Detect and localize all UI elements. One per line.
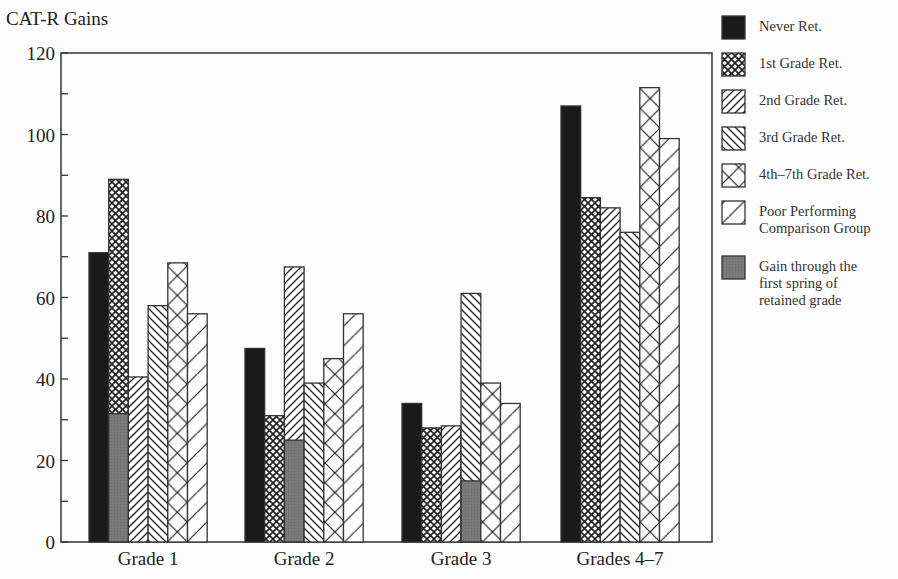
y-tick-label: 100 [27,125,56,146]
bar [265,416,285,542]
y-tick-label: 80 [36,206,55,227]
bar [188,314,208,542]
legend-swatch-spacer [722,55,745,78]
legend-label: 4th–7th Grade Ret. [759,166,870,183]
bar [344,314,364,542]
y-tick-label: 0 [46,532,56,553]
bar [89,253,109,542]
bar [324,359,344,542]
legend-label: Never Ret. [759,18,822,35]
bar [441,426,461,542]
legend-label: 2nd Grade Ret. [759,92,847,109]
legend-label: Gain through the first spring of retaine… [759,258,857,309]
bar [128,377,148,542]
x-tick-label: Grades 4–7 [577,548,664,569]
legend-label: 1st Grade Ret. [759,55,842,72]
legend-swatch-spacer [722,203,745,226]
legend-swatch-spacer [722,92,745,115]
y-tick-label: 20 [36,451,55,472]
y-tick-label: 60 [36,288,55,309]
plot-area: 020406080100120Grade 1Grade 2Grade 3Grad… [27,43,713,569]
legend-item: Gain through the first spring of retaine… [722,258,857,309]
bar-group: Grades 4–7 [561,88,679,569]
bar [148,306,168,542]
bar [245,348,265,542]
legend-label: 3rd Grade Ret. [759,129,845,146]
x-tick-label: Grade 1 [118,548,179,569]
overlay-bar [284,440,304,542]
legend-swatch-spacer [722,166,745,189]
bar [581,198,601,542]
x-tick-label: Grade 2 [274,548,335,569]
legend-item: Never Ret. [722,18,822,41]
overlay-bar [461,481,481,542]
legend-item: 1st Grade Ret. [722,55,842,78]
bar [481,383,501,542]
bar [168,263,188,542]
bar-group: Grade 1 [89,179,207,569]
overlay-bar [109,414,129,542]
bar-group: Grade 2 [245,267,363,569]
x-tick-label: Grade 3 [431,548,492,569]
bar [501,403,521,542]
bar [620,232,640,542]
bar [422,428,442,542]
bar [304,383,324,542]
bar [402,403,422,542]
y-tick-label: 40 [36,369,55,390]
legend-item: 2nd Grade Ret. [722,92,847,115]
bar [640,88,660,542]
legend-item: 3rd Grade Ret. [722,129,845,152]
legend-item: 4th–7th Grade Ret. [722,166,870,189]
legend-swatch-spacer [722,129,745,152]
bar [561,106,581,542]
legend-swatch-spacer [722,258,745,281]
legend-label: Poor Performing Comparison Group [759,203,871,237]
bar [600,208,620,542]
legend-swatch-spacer [722,18,745,41]
bar-group: Grade 3 [402,293,520,569]
legend-item: Poor Performing Comparison Group [722,203,871,237]
bar [660,139,680,542]
y-tick-label: 120 [27,43,56,64]
